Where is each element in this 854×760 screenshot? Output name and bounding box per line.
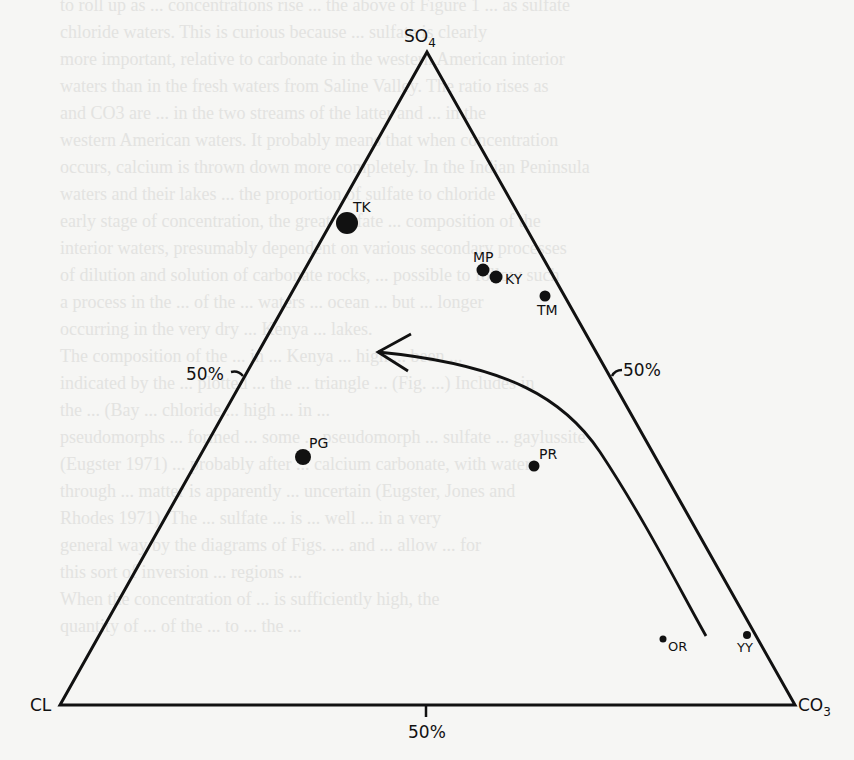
vertex-label-co3: CO3 (798, 695, 831, 719)
point-label-yy: YY (736, 640, 753, 655)
point-mp (477, 264, 490, 277)
point-label-pg: PG (309, 435, 328, 451)
point-label-ky: KY (505, 271, 523, 287)
point-label-tk: TK (352, 199, 372, 215)
tick-label-left-50: 50% (186, 364, 224, 384)
trend-arrow-curve (378, 352, 706, 636)
point-pr (529, 461, 540, 472)
point-yy (743, 631, 751, 639)
point-or (660, 636, 667, 643)
vertex-label-cl: CL (30, 695, 52, 715)
tick-label-base-50: 50% (408, 722, 446, 742)
point-label-or: OR (668, 639, 687, 654)
tick-right-50 (612, 370, 622, 376)
ternary-triangle (60, 52, 795, 705)
point-ky (490, 271, 503, 284)
vertex-label-so4: SO4 (404, 26, 436, 50)
tick-left-50 (231, 372, 243, 377)
tick-label-right-50: 50% (623, 360, 661, 380)
point-label-tm: TM (536, 302, 558, 318)
point-tk (336, 212, 358, 234)
ternary-diagram: SO4 CL CO3 50% 50% 50% TK MP KY TM PG PR… (0, 0, 854, 760)
point-tm (540, 291, 551, 302)
point-pg (295, 449, 311, 465)
point-label-mp: MP (473, 249, 494, 265)
point-label-pr: PR (539, 446, 557, 462)
